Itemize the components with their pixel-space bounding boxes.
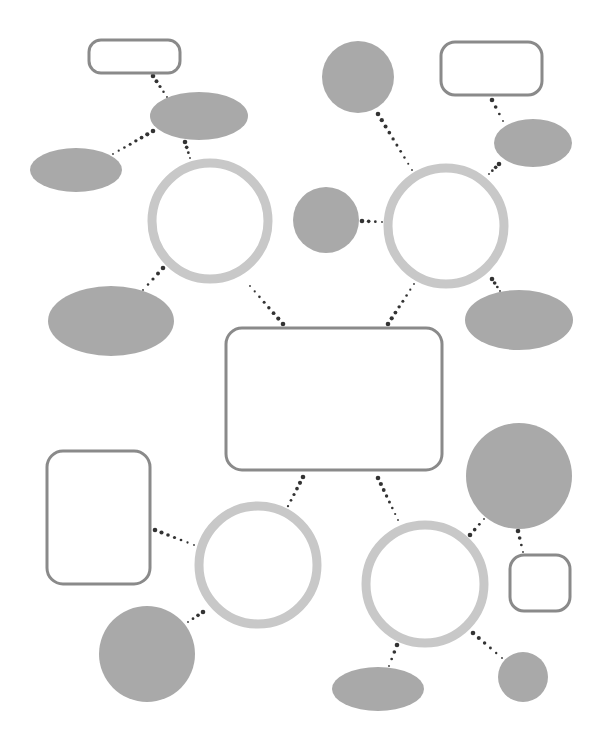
- connector-tr-ellipse-to-hub-top-right: [488, 162, 501, 175]
- tr-mid-circle-circle: [293, 187, 359, 253]
- connector-tl-box-to-tl-ellipse: [151, 74, 168, 98]
- connector-tr-box-to-tr-ellipse: [490, 98, 504, 122]
- connector-tr-mid-circle-to-hub-top-right: [360, 219, 383, 224]
- connector-tr-top-circle-to-hub-top-right: [376, 112, 413, 171]
- connector-hub-bottom-right-to-br-small-circle: [471, 631, 503, 659]
- central-box: [226, 328, 442, 470]
- connector-hub-top-left-to-tl-bottom-ellipse: [142, 266, 165, 291]
- hub-bottom-right-ring: [366, 525, 484, 643]
- br-box-rounded-rect: [510, 555, 570, 611]
- br-top-circle-circle: [466, 423, 572, 529]
- connector-bl-box-to-hub-bottom-left: [153, 528, 195, 546]
- tl-bottom-ellipse-ellipse: [48, 286, 174, 356]
- tr-top-circle-circle: [322, 41, 394, 113]
- bl-circle-circle: [99, 606, 195, 702]
- bl-box-rounded-rect: [47, 451, 150, 584]
- connector-center-to-hub-bottom-left: [284, 475, 305, 513]
- br-ellipse-ellipse: [332, 667, 424, 711]
- tr-bottom-ellipse-ellipse: [465, 290, 573, 350]
- connector-tl-ellipse-to-hub-top-left: [183, 140, 191, 159]
- central-rounded-box: [226, 328, 442, 470]
- tl-box-rounded-rect: [89, 40, 180, 73]
- tr-ellipse-ellipse: [494, 119, 572, 167]
- connector-hub-bottom-right-to-br-ellipse: [388, 643, 399, 667]
- connector-hub-bottom-right-to-br-top-circle: [468, 518, 485, 537]
- connector-center-to-hub-top-right: [386, 283, 415, 326]
- tl-left-ellipse-ellipse: [30, 148, 122, 192]
- hub-bottom-left-ring: [199, 506, 317, 624]
- tr-box-rounded-rect: [441, 42, 542, 95]
- bubble-map-diagram: [0, 0, 607, 748]
- tl-ellipse-ellipse: [150, 92, 248, 140]
- connector-center-to-hub-bottom-right: [376, 476, 399, 521]
- connector-hub-bottom-left-to-bl-circle: [187, 610, 205, 623]
- connector-tl-ellipse-to-tl-left-ellipse: [112, 129, 155, 155]
- connector-center-to-hub-top-left: [249, 285, 285, 326]
- hub-top-right-ring: [388, 168, 504, 284]
- connector-br-top-circle-to-br-box: [516, 529, 524, 553]
- br-small-circle-circle: [498, 652, 548, 702]
- scan-artifact-marks: [0, 0, 300, 8]
- hub-top-left-ring: [152, 163, 268, 279]
- connector-hub-top-right-to-tr-bottom-ellipse: [490, 277, 501, 292]
